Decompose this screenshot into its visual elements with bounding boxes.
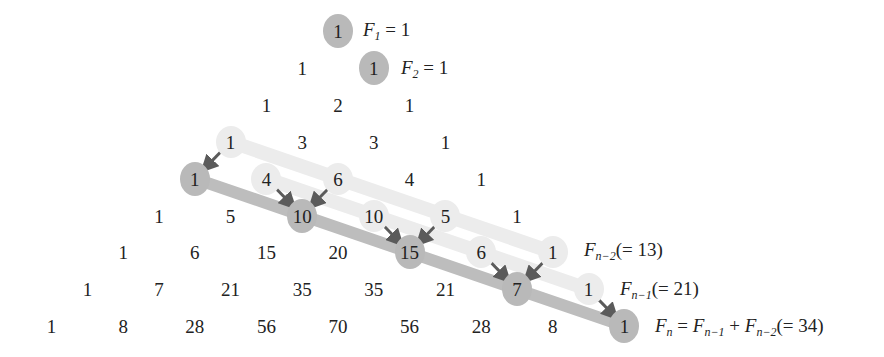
label-f2: F2 = 1 <box>401 57 448 82</box>
pascal-entry: 70 <box>329 317 348 336</box>
pascal-entry: 2 <box>333 95 343 114</box>
pascal-entry: 5 <box>226 206 236 225</box>
pascal-entry: 1 <box>584 280 594 299</box>
pascal-entry: 1 <box>548 243 558 262</box>
equation-rest: = 1 <box>381 19 411 40</box>
pascal-entry: 1 <box>441 132 451 151</box>
pascal-entry: 3 <box>297 132 307 151</box>
pascal-entry: 8 <box>118 317 128 336</box>
subscript: n−2 <box>596 249 616 263</box>
pascal-entry: 10 <box>293 206 312 225</box>
equation-rest: (= 34) <box>776 315 823 336</box>
pascal-entry: 28 <box>472 317 491 336</box>
band-and-arrow-layer <box>0 0 884 357</box>
pascal-entry: 56 <box>257 317 276 336</box>
pascal-entry: 1 <box>405 95 415 114</box>
pascal-entry: 8 <box>548 317 558 336</box>
pascal-entry: 7 <box>154 280 164 299</box>
pascal-entry: 1 <box>512 206 522 225</box>
pascal-entry: 21 <box>221 280 240 299</box>
pascal-entry: 1 <box>83 280 93 299</box>
pascal-entry: 6 <box>333 169 343 188</box>
subscript: n−2 <box>756 325 776 339</box>
equation-rest: (= 13) <box>616 239 663 260</box>
pascal-entry: 28 <box>185 317 204 336</box>
pascal-entry: 6 <box>190 243 200 262</box>
pascal-entry: 7 <box>512 280 522 299</box>
pascal-entry: 56 <box>400 317 419 336</box>
pascal-entry: 1 <box>476 169 486 188</box>
f-symbol: F <box>620 278 632 299</box>
subscript: n−1 <box>704 325 724 339</box>
pascal-entry: 1 <box>190 169 200 188</box>
label-fn-minus-1: Fn−1(= 21) <box>620 278 699 303</box>
sum-arrow <box>207 151 222 166</box>
pascal-entry: 35 <box>293 280 312 299</box>
pascal-entry: 20 <box>329 243 348 262</box>
pascal-entry: 1 <box>47 317 57 336</box>
pascal-entry: 1 <box>154 206 164 225</box>
pascal-fibonacci-diagram: F1 = 1 F2 = 1 Fn−2(= 13) Fn−1(= 21) Fn =… <box>0 0 884 357</box>
pascal-entry: 1 <box>262 95 272 114</box>
f-symbol: F <box>745 315 757 336</box>
pascal-entry: 3 <box>369 132 379 151</box>
pascal-entry: 1 <box>333 22 343 41</box>
equation-rest: (= 21) <box>652 278 699 299</box>
pascal-entry: 21 <box>436 280 455 299</box>
pascal-entry: 35 <box>364 280 383 299</box>
subscript: n−1 <box>632 288 652 302</box>
pascal-entry: 15 <box>257 243 276 262</box>
pascal-entry: 1 <box>369 58 379 77</box>
equals-sign: = <box>673 315 693 336</box>
pascal-entry: 6 <box>476 243 486 262</box>
pascal-entry: 15 <box>400 243 419 262</box>
pascal-entry: 1 <box>620 317 630 336</box>
equation-rest: = 1 <box>419 57 449 78</box>
f-symbol: F <box>401 57 413 78</box>
pascal-entry: 1 <box>297 58 307 77</box>
f-symbol: F <box>655 315 667 336</box>
pascal-entry: 4 <box>405 169 415 188</box>
label-f1: F1 = 1 <box>363 19 410 44</box>
label-fn-minus-2: Fn−2(= 13) <box>584 239 663 264</box>
label-fn-recurrence: Fn = Fn−1 + Fn−2(= 34) <box>655 315 824 340</box>
pascal-entry: 4 <box>262 169 272 188</box>
pascal-entry: 10 <box>364 206 383 225</box>
pascal-entry: 5 <box>441 206 451 225</box>
pascal-entry: 1 <box>118 243 128 262</box>
f-symbol: F <box>693 315 705 336</box>
plus-sign: + <box>725 315 745 336</box>
pascal-entry: 1 <box>226 132 236 151</box>
f-symbol: F <box>584 239 596 260</box>
f-symbol: F <box>363 19 375 40</box>
